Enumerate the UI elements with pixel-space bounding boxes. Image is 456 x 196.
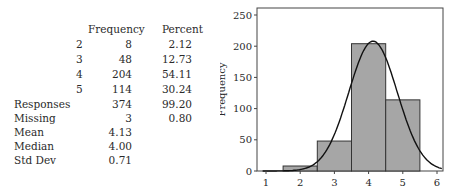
row-frequency: 204 <box>100 67 132 81</box>
row-frequency: 8 <box>100 37 132 51</box>
row-label: Mean <box>14 125 44 139</box>
x-tick-label: 6 <box>434 177 440 188</box>
row-frequency: 4.00 <box>100 139 132 153</box>
row-frequency: 48 <box>100 52 132 66</box>
row-value: 5 <box>76 82 83 96</box>
y-tick-label: 150 <box>233 72 252 83</box>
row-frequency: 374 <box>100 97 132 111</box>
row-label: Median <box>14 139 54 153</box>
histogram-bar <box>352 44 386 171</box>
row-frequency: 3 <box>100 111 132 125</box>
row-percent: 30.24 <box>150 82 192 96</box>
x-tick-label: 3 <box>331 177 337 188</box>
row-percent: 2.12 <box>150 37 192 51</box>
x-tick-label: 4 <box>365 177 371 188</box>
y-tick-label: 50 <box>239 134 252 145</box>
y-axis-label: Frequency <box>220 62 227 116</box>
row-label: Missing <box>14 111 56 125</box>
y-tick-label: 250 <box>233 10 252 21</box>
row-percent: 12.73 <box>150 52 192 66</box>
histogram-chart: 050100150200250123456Frequency <box>220 0 456 196</box>
header-frequency: Frequency <box>88 22 145 36</box>
row-percent: 54.11 <box>150 67 192 81</box>
frequency-table: Frequency Percent 2 8 2.12 3 48 12.73 4 … <box>0 0 230 196</box>
row-frequency: 114 <box>100 82 132 96</box>
row-value: 2 <box>76 37 83 51</box>
header-percent: Percent <box>162 22 203 36</box>
x-tick-label: 1 <box>263 177 269 188</box>
row-percent: 99.20 <box>150 97 192 111</box>
row-value: 3 <box>76 52 83 66</box>
x-tick-label: 5 <box>400 177 406 188</box>
y-tick-label: 0 <box>246 166 252 177</box>
y-tick-label: 200 <box>233 41 252 52</box>
row-percent: 0.80 <box>150 111 192 125</box>
row-label: Responses <box>14 97 70 111</box>
row-frequency: 0.71 <box>100 153 132 167</box>
y-tick-label: 100 <box>233 103 252 114</box>
histogram-svg: 050100150200250123456Frequency <box>220 0 456 196</box>
row-value: 4 <box>76 67 83 81</box>
x-tick-label: 2 <box>297 177 303 188</box>
row-label: Std Dev <box>14 153 56 167</box>
row-frequency: 4.13 <box>100 125 132 139</box>
